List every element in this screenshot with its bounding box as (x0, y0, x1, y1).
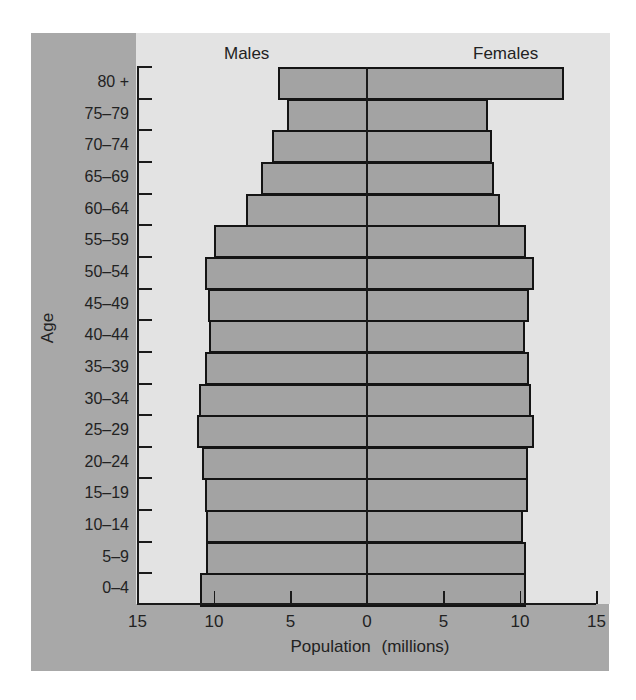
y-tick (137, 572, 152, 574)
y-tick-label: 30–34 (0, 390, 129, 408)
bar-females (366, 573, 526, 606)
x-tick (367, 591, 369, 604)
x-tick-label: 15 (577, 612, 617, 632)
y-tick (137, 509, 152, 511)
y-tick-label: 80 + (0, 73, 129, 91)
y-tick-label: 60–64 (0, 200, 129, 218)
y-tick (137, 477, 152, 479)
bar-females (366, 415, 534, 448)
y-tick-label: 70–74 (0, 136, 129, 154)
y-tick-label: 25–29 (0, 421, 129, 439)
y-tick-label: 40–44 (0, 326, 129, 344)
y-tick (137, 541, 152, 543)
y-tick (137, 319, 152, 321)
y-tick (137, 256, 152, 258)
zero-line (366, 67, 368, 605)
x-tick-label: 0 (347, 612, 387, 632)
y-tick-label: 15–19 (0, 484, 129, 502)
bar-males (205, 257, 368, 290)
x-tick-label: 15 (118, 612, 158, 632)
y-tick-label: 50–54 (0, 263, 129, 281)
bar-females (366, 447, 528, 480)
y-tick-label: 20–24 (0, 453, 129, 471)
x-tick-label: 10 (194, 612, 234, 632)
bar-males (208, 289, 368, 322)
y-tick-label: 0–4 (0, 579, 129, 597)
y-tick-labels: 80 +75–7970–7465–6960–6455–5950–5445–494… (0, 0, 129, 700)
y-tick-label: 5–9 (0, 548, 129, 566)
y-tick (137, 414, 152, 416)
y-tick-label: 65–69 (0, 168, 129, 186)
bar-males (261, 162, 368, 195)
bar-males (200, 573, 368, 606)
y-tick (137, 66, 152, 68)
x-tick-label: 5 (424, 612, 464, 632)
bar-males (205, 352, 368, 385)
bar-females (366, 320, 525, 353)
y-tick (137, 446, 152, 448)
bar-females (366, 130, 492, 163)
x-tick (596, 591, 598, 604)
x-axis-title: Population (millions) (0, 637, 636, 657)
x-tick-label: 10 (500, 612, 540, 632)
x-tick (520, 591, 522, 604)
x-tick (443, 591, 445, 604)
bar-males (202, 447, 368, 480)
bar-females (366, 67, 564, 100)
bar-females (366, 510, 523, 543)
y-tick (137, 224, 152, 226)
bar-males (272, 130, 368, 163)
y-tick (137, 193, 152, 195)
y-tick (137, 351, 152, 353)
bar-males (246, 194, 368, 227)
bar-females (366, 384, 531, 417)
bar-males (197, 415, 368, 448)
bar-males (199, 384, 368, 417)
bar-females (366, 542, 526, 575)
bar-males (206, 510, 368, 543)
bar-males (214, 225, 368, 258)
x-tick (214, 591, 216, 604)
y-tick-label: 35–39 (0, 358, 129, 376)
y-tick-label: 10–14 (0, 516, 129, 534)
y-tick (137, 98, 152, 100)
y-tick (137, 129, 152, 131)
y-tick (137, 161, 152, 163)
x-tick-label: 5 (271, 612, 311, 632)
y-tick-label: 75–79 (0, 105, 129, 123)
bar-females (366, 194, 500, 227)
bar-males (287, 99, 368, 132)
bar-females (366, 289, 529, 322)
y-tick (137, 288, 152, 290)
bar-females (366, 99, 488, 132)
y-axis-title: Age (38, 308, 58, 348)
bar-males (278, 67, 368, 100)
x-tick (290, 591, 292, 604)
bar-females (366, 352, 529, 385)
bar-males (209, 320, 368, 353)
bar-females (366, 225, 526, 258)
bar-females (366, 257, 534, 290)
bar-males (206, 542, 368, 575)
bar-males (205, 478, 368, 511)
bar-females (366, 478, 528, 511)
y-tick (137, 383, 152, 385)
y-axis (137, 67, 139, 605)
y-tick-label: 55–59 (0, 231, 129, 249)
males-header: Males (224, 44, 269, 64)
bar-females (366, 162, 494, 195)
y-tick-label: 45–49 (0, 295, 129, 313)
females-header: Females (473, 44, 538, 64)
